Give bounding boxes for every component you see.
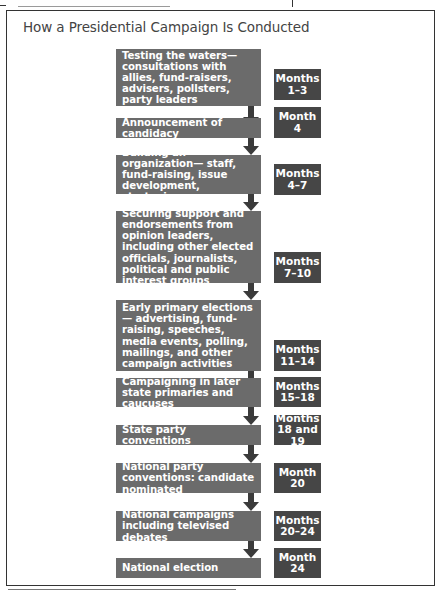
month-badge-1: Months1–3 [274, 69, 321, 100]
flow-step-early-primaries: Early primary elections— advertising, fu… [116, 300, 261, 371]
figure-title: How a Presidential Campaign Is Conducted [23, 19, 309, 35]
month-label: Month [274, 111, 321, 123]
flow-step-securing-support: Securing support and endorsements from o… [116, 211, 261, 283]
month-value: 7–10 [274, 268, 321, 280]
down-arrow-icon [243, 541, 259, 558]
flow-step-state-conventions: State party conventions [116, 425, 261, 445]
step-label: National party conventions: candidate no… [122, 461, 255, 495]
step-label: Announcement of candidacy [122, 117, 255, 139]
down-arrow-icon [243, 283, 259, 300]
month-value: 4 [274, 123, 321, 135]
page-header-tick [292, 0, 293, 7]
step-label: Securing support and endorsements from o… [122, 208, 255, 286]
month-badge-2: Month4 [274, 107, 321, 138]
month-badge-10: Month24 [274, 548, 321, 578]
month-label: Months [274, 256, 321, 268]
month-label: Months [274, 168, 321, 180]
flow-step-national-conventions: National party conventions: candidate no… [116, 463, 261, 493]
step-label: State party conventions [122, 424, 255, 446]
flow-step-later-primaries: Campaigning in later state primaries and… [116, 378, 261, 407]
flow-step-national-election: National election [116, 558, 261, 578]
page-bottom-rule [8, 589, 236, 590]
flow-step-testing-waters: Testing the waters— consultations with a… [116, 49, 261, 106]
month-value: 15–18 [274, 392, 321, 404]
month-badge-3: Months4–7 [274, 164, 321, 195]
flow-step-national-campaigns: National campaigns including televised d… [116, 511, 261, 541]
month-value: 4–7 [274, 180, 321, 192]
step-label: Campaigning in later state primaries and… [122, 376, 255, 410]
step-label: National election [122, 562, 218, 573]
month-value: 20–24 [274, 526, 321, 538]
flow-step-announcement: Announcement of candidacy [116, 118, 261, 138]
month-badge-4: Months7–10 [274, 252, 321, 283]
flow-step-building-organization: Building an organization— staff, fund-ra… [116, 155, 261, 194]
month-label: Months [274, 73, 321, 85]
step-label: National campaigns including televised d… [122, 509, 255, 543]
page-edge-line [0, 5, 6, 6]
step-label: Building an organization— staff, fund-ra… [122, 147, 255, 203]
page-header-rule [18, 6, 170, 7]
month-value: 24 [274, 563, 321, 575]
month-value: 20 [274, 478, 321, 490]
month-badge-5: Months11–14 [274, 340, 321, 371]
month-badge-8: Month20 [274, 463, 321, 493]
month-badge-9: Months20–24 [274, 511, 321, 541]
step-label: Early primary elections— advertising, fu… [122, 302, 255, 369]
month-value: 11–14 [274, 356, 321, 368]
month-value: 18 and 19 [274, 424, 321, 447]
month-value: 1–3 [274, 85, 321, 97]
month-badge-7: Months18 and 19 [274, 415, 321, 445]
down-arrow-icon [243, 407, 259, 425]
step-label: Testing the waters— consultations with a… [122, 50, 255, 106]
month-badge-6: Months15–18 [274, 377, 321, 407]
month-label: Months [274, 344, 321, 356]
